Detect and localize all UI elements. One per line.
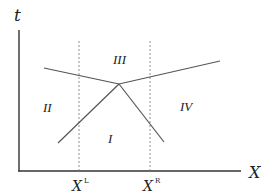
region-label-i: I xyxy=(107,131,113,146)
svg-text:L: L xyxy=(84,177,89,185)
x-axis-label: X xyxy=(247,163,261,182)
svg-text:X: X xyxy=(71,178,83,194)
svg-text:R: R xyxy=(155,177,161,185)
lower-right-line xyxy=(119,84,164,142)
y-axis-label: t xyxy=(14,5,21,25)
svg-text:X: X xyxy=(142,178,154,194)
x-left-label: X L xyxy=(71,177,89,194)
region-label-iii: III xyxy=(112,52,127,67)
x-right-label: X R xyxy=(142,177,161,194)
upper-right-line xyxy=(119,61,220,84)
region-label-iv: IV xyxy=(179,99,194,114)
region-label-ii: II xyxy=(42,100,52,115)
upper-left-line xyxy=(44,68,119,84)
riemann-problem-diagram: t X III II IV I X L X R xyxy=(0,0,277,196)
